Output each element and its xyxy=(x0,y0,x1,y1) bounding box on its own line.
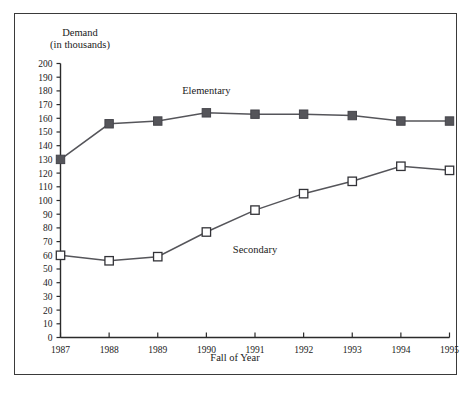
data-point-elementary-1995 xyxy=(445,117,453,125)
x-tick-label: 1992 xyxy=(294,345,313,355)
data-point-secondary-1987 xyxy=(56,251,64,259)
y-tick-label: 10 xyxy=(43,319,53,329)
data-point-secondary-1995 xyxy=(445,166,453,174)
data-point-secondary-1993 xyxy=(348,177,356,185)
y-tick-label: 110 xyxy=(39,182,53,192)
plot-area: 0102030405060708090100110120130140150160… xyxy=(0,0,472,400)
y-tick-label: 0 xyxy=(48,333,53,343)
y-tick-label: 50 xyxy=(43,264,53,274)
series-label-elementary: Elementary xyxy=(182,85,231,96)
y-tick-label: 150 xyxy=(38,127,53,137)
data-point-secondary-1994 xyxy=(397,162,405,170)
data-point-secondary-1991 xyxy=(251,206,259,214)
y-tick-label: 40 xyxy=(43,278,53,288)
data-point-elementary-1988 xyxy=(105,120,113,128)
data-point-elementary-1987 xyxy=(56,155,64,163)
x-axis-ticks: 198719881989199019911992199319941995 xyxy=(51,333,459,355)
data-point-secondary-1992 xyxy=(299,189,307,197)
y-tick-label: 30 xyxy=(43,292,53,302)
y-tick-label: 70 xyxy=(43,237,53,247)
x-tick-label: 1995 xyxy=(440,345,459,355)
y-tick-label: 130 xyxy=(38,155,53,165)
y-tick-label: 20 xyxy=(43,306,53,316)
data-point-secondary-1990 xyxy=(202,228,210,236)
y-tick-label: 180 xyxy=(38,86,53,96)
data-point-elementary-1989 xyxy=(154,117,162,125)
data-point-secondary-1989 xyxy=(154,252,162,260)
y-tick-label: 80 xyxy=(43,223,53,233)
series-label-secondary: Secondary xyxy=(233,244,278,255)
x-tick-label: 1988 xyxy=(100,345,119,355)
data-point-elementary-1994 xyxy=(397,117,405,125)
x-tick-label: 1989 xyxy=(148,345,167,355)
y-tick-label: 170 xyxy=(38,100,53,110)
data-point-elementary-1991 xyxy=(251,110,259,118)
y-tick-label: 160 xyxy=(38,114,53,124)
y-axis-ticks: 0102030405060708090100110120130140150160… xyxy=(38,59,60,343)
data-point-elementary-1992 xyxy=(299,110,307,118)
y-tick-label: 90 xyxy=(43,210,53,220)
demand-line-chart: Demand(in thousands) Fall of Year 010203… xyxy=(0,0,472,400)
data-point-elementary-1990 xyxy=(202,109,210,117)
y-tick-label: 140 xyxy=(38,141,53,151)
y-tick-label: 190 xyxy=(38,73,53,83)
series-paths xyxy=(61,113,450,261)
x-tick-label: 1993 xyxy=(343,345,362,355)
data-point-secondary-1988 xyxy=(105,257,113,265)
series-annotations: ElementarySecondary xyxy=(182,85,278,255)
x-tick-label: 1994 xyxy=(391,345,410,355)
series-markers xyxy=(56,109,453,265)
y-tick-label: 120 xyxy=(38,169,53,179)
x-tick-label: 1987 xyxy=(51,345,70,355)
x-tick-label: 1991 xyxy=(246,345,265,355)
data-point-elementary-1993 xyxy=(348,111,356,119)
series-line-elementary xyxy=(61,113,450,160)
y-tick-label: 200 xyxy=(38,59,53,69)
y-tick-label: 60 xyxy=(43,251,53,261)
y-tick-label: 100 xyxy=(38,196,53,206)
x-tick-label: 1990 xyxy=(197,345,216,355)
